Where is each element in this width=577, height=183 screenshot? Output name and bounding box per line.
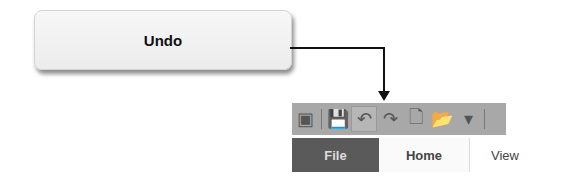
customize-dropdown-icon[interactable]: ▾ (455, 106, 481, 132)
tab-file[interactable]: File (292, 138, 379, 172)
tab-view[interactable]: View (470, 138, 540, 172)
undo-callout: Undo (34, 10, 292, 70)
new-document-icon[interactable]: 🗋 (403, 106, 429, 132)
connector-line-horizontal (290, 47, 385, 49)
redo-icon[interactable]: ↷ (377, 106, 403, 132)
app-icon[interactable]: ▣ (292, 106, 318, 132)
ribbon-tabs: File Home View (292, 138, 540, 172)
callout-label: Undo (144, 32, 182, 49)
undo-icon[interactable]: ↶ (351, 106, 377, 132)
quick-access-toolbar: ▣ 💾 ↶ ↷ 🗋 📂 ▾ (292, 103, 506, 135)
tab-home[interactable]: Home (379, 138, 470, 172)
arrow-down-icon (378, 91, 390, 101)
connector-line-vertical (383, 47, 385, 93)
toolbar-separator (321, 109, 322, 129)
open-icon[interactable]: 📂 (429, 106, 455, 132)
save-icon[interactable]: 💾 (325, 106, 351, 132)
toolbar-separator (484, 109, 485, 129)
